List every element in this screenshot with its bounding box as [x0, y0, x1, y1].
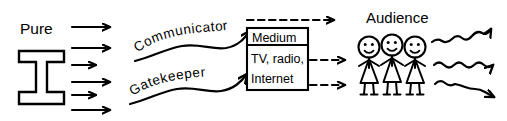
figure-head-right [405, 37, 426, 58]
figure-legs-left [364, 83, 374, 94]
i-beam-shape [19, 51, 64, 104]
figure-eye-center-2 [394, 41, 397, 44]
gatekeeper-label: Gatekeeper [127, 64, 207, 98]
gatekeeper-group: Gatekeeper [127, 64, 247, 104]
source-arrow-group [72, 27, 110, 110]
stick-figure-center [381, 35, 403, 95]
audience-wavy-arrow-group [432, 29, 494, 97]
medium-header-label: Medium [252, 31, 296, 45]
audience-figures [359, 35, 426, 95]
wavy-arrow-up [432, 29, 491, 42]
diagram-canvas: Pure Communicator [0, 0, 507, 121]
figure-head-center [382, 35, 403, 56]
medium-line-2: Internet [251, 72, 294, 86]
figure-head-left [359, 37, 380, 58]
communication-model-diagram: Pure Communicator [0, 0, 507, 121]
medium-line-1: TV, radio, [251, 52, 304, 66]
wavy-arrow-straight [434, 63, 493, 68]
stick-figure-right [405, 37, 426, 95]
medium-box: Medium TV, radio, Internet [247, 28, 308, 90]
audience-label: Audience [366, 9, 429, 26]
figure-legs-right [410, 83, 420, 94]
source-label: Pure [20, 20, 53, 37]
figure-eye-left-2 [371, 43, 374, 46]
figure-eye-right-2 [417, 43, 420, 46]
figure-eye-right-1 [410, 43, 413, 46]
wavy-arrow-down [435, 81, 494, 97]
communicator-group: Communicator [131, 18, 250, 61]
stick-figure-left [359, 37, 380, 95]
figure-legs-center [387, 82, 397, 94]
figure-eye-left-1 [364, 43, 367, 46]
communicator-label: Communicator [131, 18, 229, 55]
figure-eye-center-1 [387, 41, 390, 44]
